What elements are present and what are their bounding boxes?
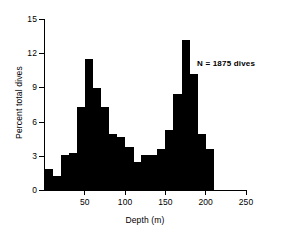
histogram-bars [0, 0, 281, 238]
sample-size-annotation: N = 1875 dives [197, 59, 255, 68]
histogram-figure: 03691215 50100150200250 Percent total di… [0, 0, 281, 238]
y-axis-label: Percent total dives [15, 43, 24, 163]
x-axis-label: Depth (m) [44, 215, 246, 225]
histogram-bar [206, 149, 214, 190]
